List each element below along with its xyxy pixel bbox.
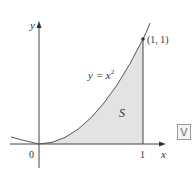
video-badge[interactable]: V — [177, 124, 191, 140]
y-axis-arrow-icon — [37, 21, 42, 28]
point-marker — [141, 37, 145, 41]
x-axis-label: x — [160, 148, 166, 160]
x-axis-arrow-icon — [159, 142, 166, 147]
point-label: (1, 1) — [147, 34, 169, 46]
region-label: S — [119, 106, 125, 120]
y-axis-label: y — [29, 19, 35, 31]
x-tick-one-label: 1 — [140, 149, 145, 160]
area-under-parabola-diagram: y x 0 1 (1, 1) y = x2 S — [0, 0, 193, 176]
region-s — [39, 39, 143, 144]
origin-label: 0 — [29, 149, 34, 160]
curve-label-exponent: 2 — [111, 68, 115, 76]
curve-label-base: y = x — [87, 69, 111, 81]
curve-label: y = x2 — [87, 68, 115, 81]
